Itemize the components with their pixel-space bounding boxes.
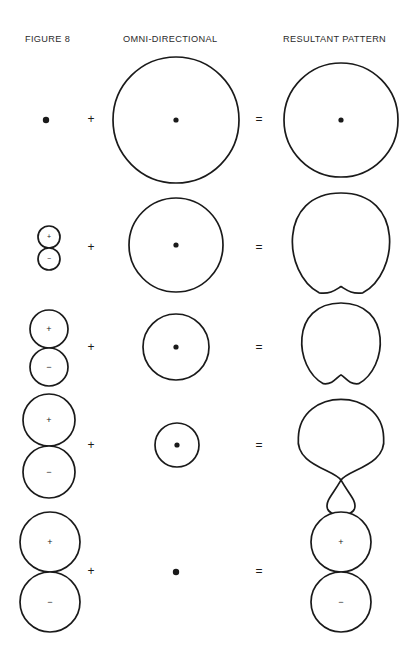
diagram-row-row-4-hypercardioid: +−+= (23, 394, 384, 515)
figure8-column-negative-lobe-sign: − (46, 467, 51, 477)
omni-column-center-dot (173, 242, 178, 247)
result-column-hypercardioid-main-lobe (298, 399, 384, 480)
result-column-cardioid-shape (302, 303, 381, 384)
diagram-row-row-2-wide-cardioid: +−+= (38, 193, 390, 293)
figure8-column-negative-lobe-sign: − (47, 597, 52, 607)
diagram-row-row-5-bidirectional: +−+−+= (20, 512, 371, 632)
omni-column-point-source (173, 569, 179, 575)
equals-operator: = (255, 438, 262, 452)
column-headers: FIGURE 8OMNI-DIRECTIONALRESULTANT PATTER… (25, 34, 386, 44)
result-column-center-dot (338, 117, 343, 122)
omni-column-center-dot (174, 442, 179, 447)
polar-pattern-diagram: FIGURE 8OMNI-DIRECTIONALRESULTANT PATTER… (0, 0, 419, 672)
figure8-column-positive-lobe-sign: + (46, 324, 51, 334)
figure8-column-positive-lobe-sign: + (47, 537, 52, 547)
plus-operator: + (87, 240, 94, 254)
figure8-column-negative-lobe-sign: − (46, 362, 51, 372)
figure8-column-positive-lobe-sign: + (47, 233, 51, 240)
equals-operator: = (255, 112, 262, 126)
column-header-omni-directional: OMNI-DIRECTIONAL (123, 34, 217, 44)
equals-operator: = (255, 240, 262, 254)
result-column-negative-lobe-sign: − (338, 597, 343, 607)
figure8-column-negative-lobe-sign: − (47, 255, 51, 262)
diagram-row-row-1-omnidirectional: += (43, 57, 398, 183)
diagram-rows: +=+−+=+−+=+−+=+−+−+= (20, 57, 398, 632)
figure8-column-point-source (43, 117, 49, 123)
omni-column-center-dot (173, 344, 178, 349)
plus-operator: + (87, 112, 94, 126)
result-column-positive-lobe-sign: + (338, 537, 343, 547)
column-header-figure-8: FIGURE 8 (25, 34, 70, 44)
omni-column-center-dot (173, 117, 178, 122)
result-column-cardioid-shape (292, 193, 389, 293)
plus-operator: + (87, 340, 94, 354)
column-header-resultant-pattern: RESULTANT PATTERN (283, 34, 386, 44)
plus-operator: + (87, 564, 94, 578)
equals-operator: = (255, 340, 262, 354)
diagram-canvas: FIGURE 8OMNI-DIRECTIONALRESULTANT PATTER… (0, 0, 419, 672)
figure8-column-positive-lobe-sign: + (46, 415, 51, 425)
result-column-hypercardioid-rear-lobe (327, 480, 355, 515)
equals-operator: = (255, 564, 262, 578)
plus-operator: + (87, 438, 94, 452)
diagram-row-row-3-cardioid: +−+= (30, 303, 380, 386)
